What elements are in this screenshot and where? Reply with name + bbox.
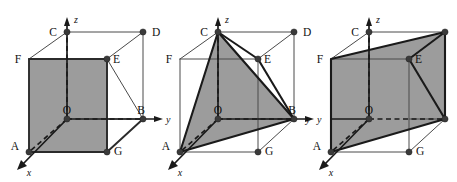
vertex-e bbox=[104, 56, 110, 62]
axis-label-x: x bbox=[26, 167, 32, 178]
vertex-e-3 bbox=[406, 56, 412, 62]
label-e-3: E bbox=[415, 53, 422, 65]
label-c: C bbox=[49, 26, 57, 38]
label-a-3: A bbox=[313, 140, 322, 152]
label-g-3: G bbox=[416, 145, 424, 157]
vertex-b-2 bbox=[291, 116, 297, 122]
vertex-e-2 bbox=[255, 56, 261, 62]
vertex-b bbox=[140, 116, 146, 122]
vertex-o-3 bbox=[366, 116, 372, 122]
axis-label-y-3: y bbox=[305, 114, 311, 125]
label-a: A bbox=[11, 140, 20, 152]
vertex-d-3 bbox=[442, 29, 448, 35]
axis-label-z-3: z bbox=[375, 14, 380, 25]
vertex-a bbox=[26, 149, 32, 155]
axis-label-y: y bbox=[165, 114, 171, 125]
figure-root: C D F E O B A G z y x bbox=[0, 0, 457, 182]
label-b-2: B bbox=[288, 104, 296, 116]
vertex-o-2 bbox=[215, 116, 221, 122]
axis-label-z: z bbox=[73, 14, 78, 25]
vertex-c bbox=[64, 29, 70, 35]
vertex-a-2 bbox=[177, 149, 183, 155]
label-d: D bbox=[152, 26, 160, 38]
vertex-g-2 bbox=[255, 149, 261, 155]
axis-label-z-2: z bbox=[224, 14, 229, 25]
label-o-3: O bbox=[365, 104, 373, 116]
label-e-2: E bbox=[264, 53, 271, 65]
axis-label-x-3: x bbox=[328, 167, 334, 178]
vertex-g-3 bbox=[406, 149, 412, 155]
label-c-2: C bbox=[200, 26, 208, 38]
label-g-2: G bbox=[265, 145, 273, 157]
label-d-2: D bbox=[303, 26, 311, 38]
axis-label-y-2: y bbox=[316, 114, 322, 125]
axis-label-x-2: x bbox=[177, 167, 183, 178]
vertex-g bbox=[104, 149, 110, 155]
label-a-2: A bbox=[162, 140, 171, 152]
vertex-o bbox=[64, 116, 70, 122]
label-o-2: O bbox=[214, 104, 222, 116]
vertex-c-3 bbox=[366, 29, 372, 35]
vertex-c-2 bbox=[215, 29, 221, 35]
label-g: G bbox=[114, 145, 122, 157]
vertex-a-3 bbox=[328, 149, 334, 155]
vertex-d bbox=[140, 29, 146, 35]
label-c-3: C bbox=[351, 26, 359, 38]
label-b: B bbox=[137, 104, 145, 116]
three-cubes-diagram: C D F E O B A G z y x bbox=[0, 0, 457, 182]
label-o: O bbox=[63, 104, 71, 116]
vertex-b-3 bbox=[442, 116, 448, 122]
label-f-2: F bbox=[166, 53, 172, 65]
vertex-d-2 bbox=[291, 29, 297, 35]
label-e: E bbox=[113, 53, 120, 65]
label-f: F bbox=[15, 53, 21, 65]
label-f-3: F bbox=[317, 53, 323, 65]
